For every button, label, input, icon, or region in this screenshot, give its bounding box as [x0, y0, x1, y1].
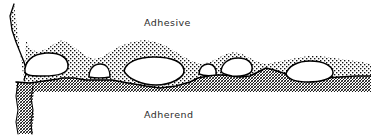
adherend-label: Adherend	[144, 109, 193, 120]
adhesive-interface-figure: Adhesive Adherend	[0, 0, 371, 136]
diagram-canvas: Adhesive Adherend	[0, 0, 371, 136]
adhesive-label: Adhesive	[144, 17, 191, 28]
